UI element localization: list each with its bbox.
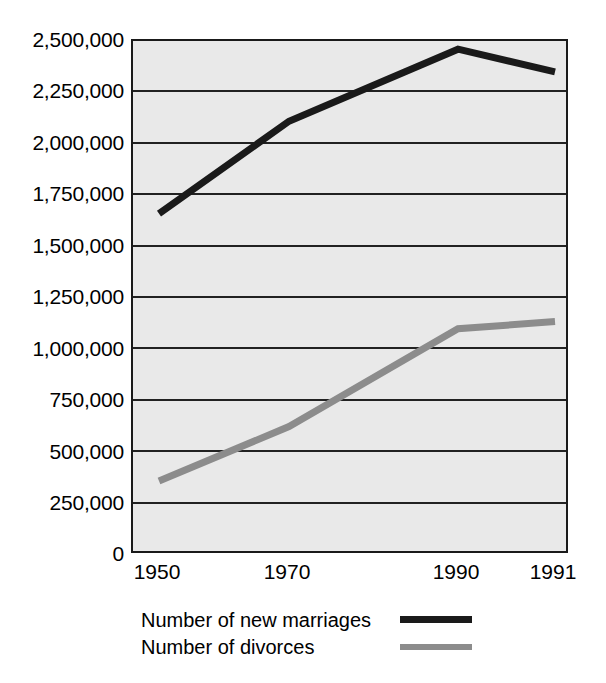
x-tick-label: 1990 [433, 560, 480, 584]
y-tick-label: 1,500,000 [0, 235, 124, 256]
line-chart-figure: 2,500,000 2,250,000 2,000,000 1,750,000 … [0, 0, 606, 683]
y-tick-label: 500,000 [0, 441, 124, 462]
plot-area [131, 39, 568, 553]
chart-legend: Number of new marriages Number of divorc… [141, 606, 471, 660]
y-tick-label: 2,000,000 [0, 132, 124, 153]
series-line-new-marriages [159, 49, 555, 214]
y-tick-label: 1,000,000 [0, 338, 124, 359]
legend-label: Number of divorces [141, 635, 314, 659]
legend-item-divorces: Number of divorces [141, 633, 471, 660]
y-tick-label: 750,000 [0, 389, 124, 410]
legend-label: Number of new marriages [141, 608, 371, 632]
legend-swatch-icon [400, 644, 472, 650]
x-axis-tick-labels: 1950 1970 1990 1991 [0, 560, 606, 590]
series-layer [133, 41, 570, 555]
y-tick-label: 1,250,000 [0, 286, 124, 307]
legend-swatch-icon [400, 616, 472, 623]
y-tick-label: 1,750,000 [0, 183, 124, 204]
series-line-divorces [159, 322, 555, 481]
legend-item-new-marriages: Number of new marriages [141, 606, 471, 633]
y-tick-label: 2,500,000 [0, 29, 124, 50]
x-tick-label: 1970 [264, 560, 311, 584]
y-tick-label: 2,250,000 [0, 80, 124, 101]
y-tick-label: 250,000 [0, 492, 124, 513]
x-tick-label: 1991 [530, 560, 577, 584]
x-tick-label: 1950 [134, 560, 181, 584]
